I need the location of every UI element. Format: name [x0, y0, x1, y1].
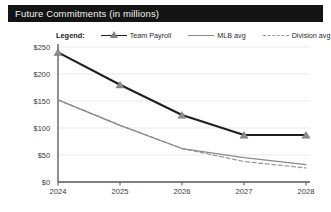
- x-axis-tick-label: 2025: [100, 187, 140, 196]
- series-line-division-avg: [58, 100, 306, 168]
- y-axis-tick-label: $50: [24, 151, 50, 160]
- x-axis-tick-label: 2028: [286, 187, 326, 196]
- y-axis-tick-label: $0: [24, 178, 50, 187]
- x-axis-tick-label: 2027: [224, 187, 264, 196]
- y-axis-tick-label: $150: [24, 97, 50, 106]
- x-axis-tick-label: 2024: [38, 187, 78, 196]
- series-line-team-payroll: [58, 52, 306, 135]
- x-axis-tick-label: 2026: [162, 187, 202, 196]
- y-axis-tick-label: $200: [24, 70, 50, 79]
- y-axis-tick-label: $250: [24, 43, 50, 52]
- y-axis-tick-label: $100: [24, 124, 50, 133]
- chart-panel: Future Commitments (in millions) Legend:…: [0, 0, 331, 212]
- data-point-marker: [54, 49, 62, 56]
